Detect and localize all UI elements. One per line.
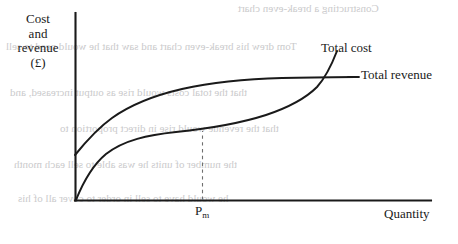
y-axis-title-line: revenue: [8, 41, 68, 56]
series-label-total-cost: Total cost: [321, 40, 372, 56]
marker-label-pm: Pm: [195, 203, 209, 220]
x-axis-title: Quantity: [384, 206, 430, 222]
marker-label-pm-sub: m: [202, 210, 209, 220]
y-axis-title-line: (£): [8, 56, 68, 71]
y-axis-title-line: and: [8, 27, 68, 42]
y-axis-title-line: Cost: [8, 12, 68, 27]
curve-total-revenue: [75, 77, 355, 155]
y-axis-title: Cost and revenue (£): [8, 12, 68, 70]
chart-page: Constructing a break-even chart Tom drew…: [0, 0, 458, 244]
series-label-total-revenue: Total revenue: [361, 67, 432, 83]
curve-total-cost: [76, 51, 337, 200]
